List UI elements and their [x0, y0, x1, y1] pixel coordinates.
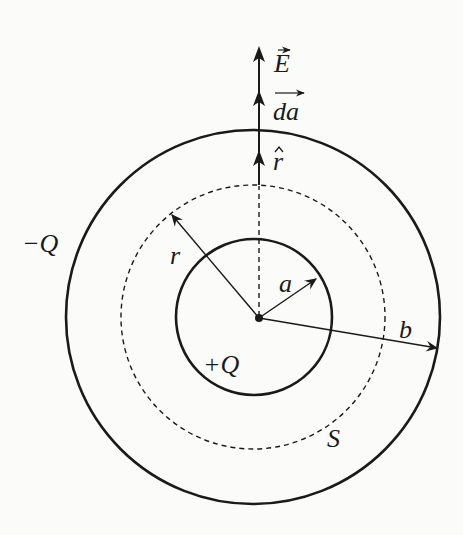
inner-sphere-circle: [176, 239, 332, 395]
spherical-capacitor-diagram: E da r r a b −Q +Q S: [0, 0, 463, 535]
outer-shell-circle: [66, 130, 440, 504]
label-E: E: [273, 49, 290, 78]
r-radius-arrow: [172, 215, 259, 318]
plus-Q-label: +Q: [203, 350, 240, 379]
r-label: r: [170, 241, 181, 270]
center-point: [255, 314, 263, 322]
label-r-hat: r: [273, 147, 284, 176]
a-label: a: [279, 269, 292, 298]
label-da: da: [273, 93, 304, 126]
gaussian-surface-circle: [121, 185, 385, 449]
minus-Q-label: −Q: [22, 229, 59, 258]
da-label: da: [273, 97, 299, 126]
E-label: E: [273, 49, 290, 78]
b-label: b: [399, 315, 412, 344]
diagram-svg: E da r r a b −Q +Q S: [0, 0, 463, 535]
S-label: S: [327, 424, 340, 453]
